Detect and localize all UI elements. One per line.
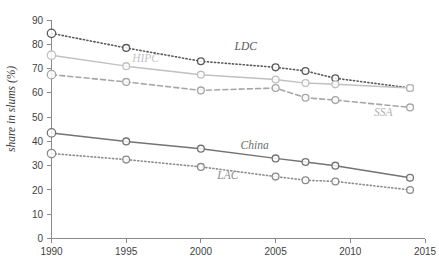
x-tick-group: 199019952000200520102015	[40, 239, 436, 258]
data-point-china-1995	[123, 138, 130, 145]
series-label-ldc: LDC	[234, 40, 258, 52]
y-tick-label: 60	[32, 87, 44, 98]
data-point-hipc-2007	[302, 80, 309, 87]
x-tick-label: 2000	[190, 246, 213, 257]
data-point-china-2007	[302, 159, 309, 166]
x-axis: 199019952000200520102015	[40, 239, 436, 258]
series-label-ssa: SSA	[374, 106, 394, 118]
x-tick-label: 2010	[339, 246, 362, 257]
data-point-lac-1990	[47, 149, 55, 157]
data-point-lac-2007	[302, 177, 309, 184]
y-tick-label: 0	[37, 233, 43, 244]
x-tick-label: 1995	[115, 246, 138, 257]
data-point-lac-2014	[407, 187, 414, 194]
data-point-ssa-2007	[302, 94, 309, 101]
y-axis-title: share in slums (%)	[5, 66, 18, 152]
data-point-ldc-2000	[198, 58, 205, 65]
y-tick-label: 80	[32, 39, 44, 50]
data-point-ldc-1990	[47, 29, 55, 37]
series-line-ssa	[52, 75, 411, 108]
data-point-lac-1995	[123, 156, 130, 163]
data-point-china-2005	[272, 155, 279, 162]
data-point-lac-2005	[272, 173, 279, 180]
data-point-ssa-1995	[123, 79, 130, 86]
data-point-ssa-2000	[198, 87, 205, 94]
y-tick-label: 70	[32, 63, 44, 74]
data-point-hipc-2000	[198, 71, 205, 78]
data-point-china-2009	[332, 162, 339, 169]
data-point-china-2000	[198, 145, 205, 152]
x-tick-label: 1990	[40, 246, 63, 257]
series-layer	[52, 33, 411, 190]
data-point-hipc-1990	[47, 51, 55, 59]
series-label-hipc: HIPC	[131, 52, 159, 64]
line-chart-canvas: share in slums (%) 0102030405060708090 1…	[0, 0, 439, 269]
annotation-layer: LDCHIPCSSAChinaLAC	[131, 40, 393, 181]
data-point-lac-2000	[198, 163, 205, 170]
x-tick-label: 2015	[414, 246, 437, 257]
y-tick-label: 40	[32, 136, 44, 147]
data-point-ldc-2005	[272, 64, 279, 71]
series-label-china: China	[241, 139, 269, 151]
data-point-ldc-2007	[302, 68, 309, 75]
y-tick-label: 30	[32, 160, 44, 171]
y-tick-label: 50	[32, 112, 44, 123]
data-point-ssa-2005	[272, 85, 279, 92]
data-point-china-1990	[47, 129, 55, 137]
y-tick-label: 10	[32, 209, 44, 220]
data-point-china-2014	[407, 174, 414, 181]
data-point-hipc-2009	[332, 81, 339, 88]
data-point-lac-2009	[332, 178, 339, 185]
chart-figure: share in slums (%) 0102030405060708090 1…	[0, 0, 439, 269]
data-point-ldc-1995	[123, 45, 130, 52]
series-line-hipc	[52, 55, 411, 88]
series-label-lac: LAC	[216, 169, 238, 181]
data-point-hipc-2014	[407, 85, 414, 92]
data-point-ssa-1990	[47, 70, 55, 78]
data-point-hipc-1995	[123, 63, 130, 70]
y-tick-label: 20	[32, 185, 44, 196]
x-tick-label: 2005	[264, 246, 287, 257]
y-tick-label: 90	[32, 15, 44, 26]
data-point-hipc-2005	[272, 76, 279, 83]
data-point-ssa-2009	[332, 97, 339, 104]
y-axis-title-group: share in slums (%)	[5, 66, 18, 152]
data-point-ssa-2014	[407, 104, 414, 111]
